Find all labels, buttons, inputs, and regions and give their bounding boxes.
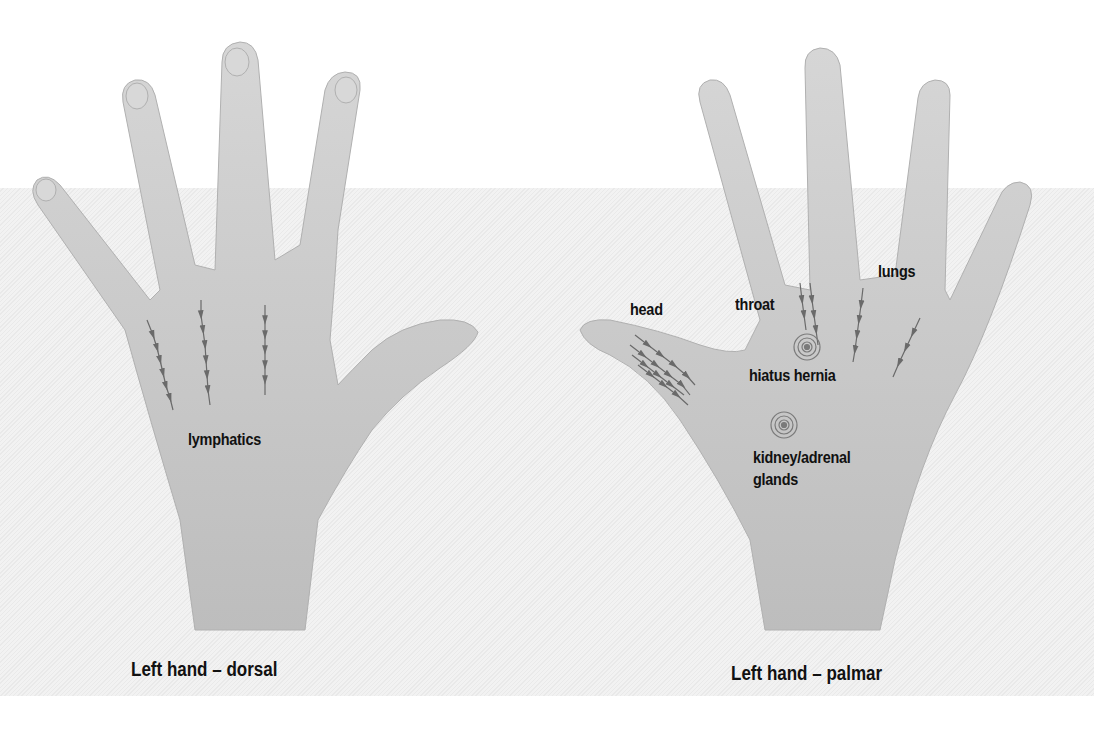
label-lungs: lungs bbox=[878, 262, 915, 282]
hands-illustration bbox=[0, 0, 1094, 735]
hiatus-hernia-target-icon bbox=[794, 334, 820, 360]
kidney-target-icon bbox=[771, 412, 797, 438]
label-throat: throat bbox=[735, 295, 774, 315]
label-glands: glands bbox=[753, 470, 798, 490]
left-hand-dorsal bbox=[33, 42, 478, 630]
label-head: head bbox=[630, 300, 663, 320]
left-hand-palmar bbox=[580, 48, 1032, 630]
label-kidney-adrenal: kidney/adrenal bbox=[753, 448, 851, 468]
label-hiatus-hernia: hiatus hernia bbox=[749, 366, 836, 386]
label-lymphatics: lymphatics bbox=[188, 430, 261, 450]
caption-palmar: Left hand – palmar bbox=[731, 662, 882, 685]
caption-dorsal: Left hand – dorsal bbox=[131, 658, 277, 681]
